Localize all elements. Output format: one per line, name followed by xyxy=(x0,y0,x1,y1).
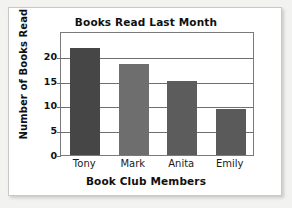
y-axis-tick-labels: 05101520 xyxy=(35,32,57,156)
x-axis-tick-labels: TonyMarkAnitaEmily xyxy=(60,158,254,174)
x-axis-tick-label: Emily xyxy=(216,158,244,169)
bar-series xyxy=(61,33,253,155)
plot-area xyxy=(60,32,254,156)
chart-card: Books Read Last Month Number of Books Re… xyxy=(8,7,282,196)
bar xyxy=(216,109,246,155)
y-axis-tick-label: 10 xyxy=(35,102,57,112)
y-axis-tick-label: 0 xyxy=(35,151,57,161)
x-axis-tick-label: Tony xyxy=(73,158,96,169)
y-axis-title: Number of Books Read xyxy=(18,20,29,140)
bar xyxy=(167,81,197,155)
bar xyxy=(70,48,100,155)
x-axis-tick-label: Anita xyxy=(168,158,194,169)
x-axis-title: Book Club Members xyxy=(9,175,283,187)
y-axis-tick-label: 15 xyxy=(35,77,57,87)
x-axis-tick-label: Mark xyxy=(120,158,145,169)
y-axis-tick-label: 20 xyxy=(35,52,57,62)
y-axis-tick-mark xyxy=(57,156,61,157)
bar xyxy=(119,64,149,155)
y-axis-tick-label: 5 xyxy=(35,126,57,136)
chart-title: Books Read Last Month xyxy=(9,16,283,28)
